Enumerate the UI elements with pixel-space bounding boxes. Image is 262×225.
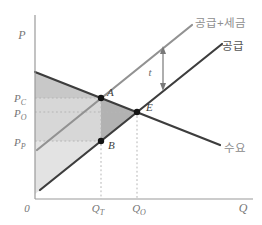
point-a-dot (98, 95, 104, 101)
demand-curve-label: 수요 (224, 142, 246, 154)
quantity-axis-label: Q (239, 201, 248, 215)
quantity-qt-main: Q (92, 202, 100, 214)
price-pc-label: PC (13, 92, 27, 107)
supply-plus-tax-curve-label: 공급+세금 (195, 17, 246, 29)
quantity-qo-sub: O (140, 208, 146, 217)
tax-revenue-region (35, 98, 101, 141)
diagram-canvas: t A E B P Q 0 PC PO PP QT QO 공급+세금 공급 수요 (0, 0, 262, 225)
quantity-qo-label: QO (132, 202, 146, 217)
origin-label: 0 (24, 202, 30, 214)
point-e-label: E (145, 101, 153, 113)
price-pp-sub: P (20, 142, 26, 151)
price-pp-label: PP (13, 136, 26, 151)
supply-curve-label: 공급 (222, 40, 244, 52)
quantity-qt-sub: T (100, 208, 105, 217)
tax-arrow (160, 46, 166, 91)
quantity-qt-label: QT (92, 202, 105, 217)
point-e-dot (134, 109, 140, 115)
price-axis-label: P (17, 28, 26, 42)
tax-amount-label: t (148, 66, 152, 78)
economics-tax-incidence-figure: t A E B P Q 0 PC PO PP QT QO 공급+세금 공급 수요 (0, 0, 262, 225)
point-b-dot (98, 138, 104, 144)
price-pc-sub: C (21, 98, 27, 107)
quantity-qo-main: Q (132, 202, 140, 214)
point-b-label: B (108, 139, 115, 151)
price-po-label: PO (13, 107, 27, 122)
price-po-sub: O (21, 113, 27, 122)
point-a-label: A (106, 86, 114, 98)
